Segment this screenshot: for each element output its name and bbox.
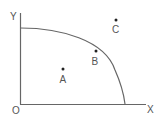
origin-label: O [12, 105, 20, 116]
x-axis-label: X [147, 104, 154, 115]
frontier-curve [21, 28, 126, 104]
ppf-diagram: Y X O A B C [0, 0, 161, 123]
y-axis-label: Y [10, 11, 17, 22]
point-b-marker [95, 50, 98, 53]
point-c-marker [115, 19, 118, 22]
point-b-label: B [92, 56, 99, 67]
point-a-label: A [60, 74, 67, 85]
point-a-marker [62, 68, 65, 71]
point-c-label: C [112, 24, 119, 35]
